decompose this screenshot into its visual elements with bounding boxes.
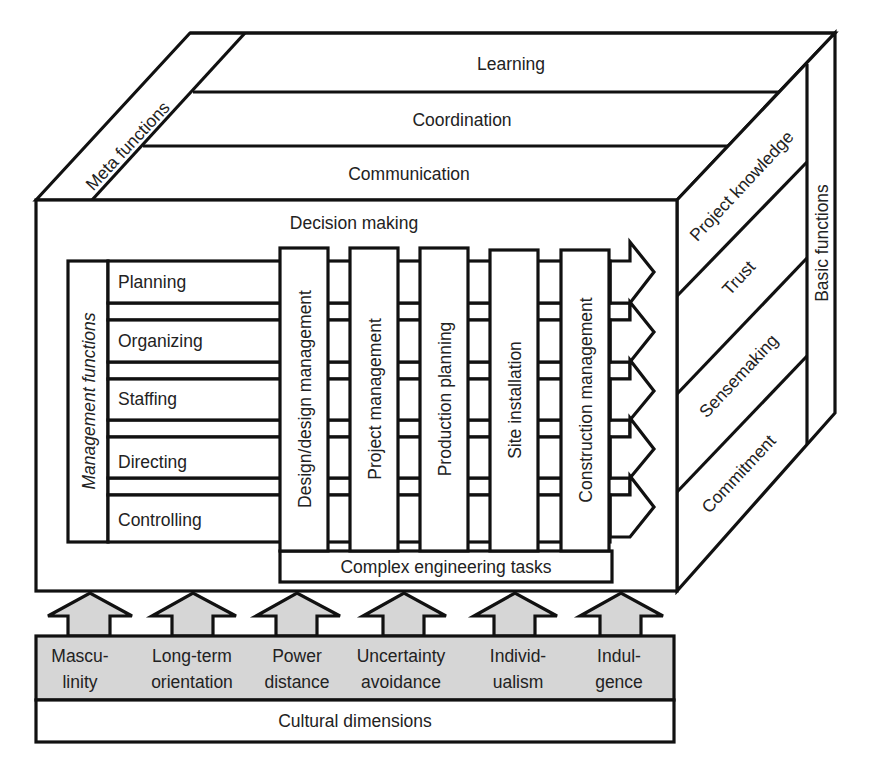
cultural-item-line1: Long-term xyxy=(152,646,232,666)
cultural-dimensions: Cultural dimensions Mascu- linity Long-t… xyxy=(36,593,674,742)
arrow-up-icon xyxy=(152,593,236,636)
arrow-up-icon xyxy=(256,593,340,636)
cultural-item-line2: gence xyxy=(595,672,643,692)
basic-functions-label: Basic functions xyxy=(812,184,832,302)
row-label-directing: Directing xyxy=(118,452,187,472)
band-learning: Learning xyxy=(477,54,545,74)
column-label-project: Project management xyxy=(365,318,385,480)
management-functions-label: Management functions xyxy=(79,312,99,489)
cultural-item-line2: orientation xyxy=(151,672,233,692)
band-communication: Communication xyxy=(348,164,470,184)
cultural-item-line1: Individ- xyxy=(490,646,547,666)
cultural-item-line1: Mascu- xyxy=(51,646,109,666)
arrow-up-icon xyxy=(363,593,446,636)
column-label-design: Design/design management xyxy=(295,290,315,508)
column-label-construction: Construction management xyxy=(576,297,596,502)
arrow-up-icon xyxy=(48,593,132,636)
cultural-item-line1: Uncertainty xyxy=(357,646,446,666)
column-label-production: Production planning xyxy=(435,322,455,477)
cultural-item-line2: avoidance xyxy=(361,672,441,692)
decision-making-label: Decision making xyxy=(290,213,418,233)
cultural-item-line1: Power xyxy=(272,646,322,666)
management-cube-diagram: Meta functions Learning Coordination Com… xyxy=(0,0,869,774)
cultural-dimensions-items-bar xyxy=(36,636,674,700)
cultural-item-line1: Indul- xyxy=(597,646,641,666)
arrow-up-icon xyxy=(474,593,557,636)
cultural-item-line2: ualism xyxy=(493,672,544,692)
cultural-dimensions-label: Cultural dimensions xyxy=(278,711,432,731)
row-label-controlling: Controlling xyxy=(118,510,202,530)
row-label-organizing: Organizing xyxy=(118,331,203,351)
row-label-staffing: Staffing xyxy=(118,389,177,409)
front-face: Decision making Management functions xyxy=(36,200,677,591)
column-label-site: Site installation xyxy=(505,341,525,459)
complex-engineering-tasks-label: Complex engineering tasks xyxy=(340,557,551,577)
row-label-planning: Planning xyxy=(118,272,186,292)
cultural-item-line2: linity xyxy=(62,672,97,692)
band-coordination: Coordination xyxy=(412,110,511,130)
arrow-up-icon xyxy=(580,593,663,636)
cultural-item-line2: distance xyxy=(264,672,329,692)
